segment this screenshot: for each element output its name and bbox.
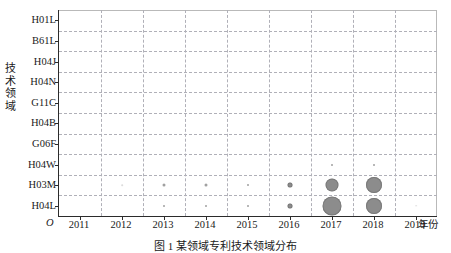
data-point bbox=[331, 164, 333, 166]
gridline-horizontal bbox=[59, 113, 437, 114]
gridline-horizontal bbox=[59, 175, 437, 176]
data-point bbox=[121, 184, 123, 186]
gridline-vertical bbox=[311, 10, 312, 216]
plot-frame-top bbox=[59, 10, 437, 11]
data-point bbox=[366, 198, 382, 214]
y-axis-title-char-3: 领 bbox=[2, 87, 18, 100]
x-axis-tick-label-2013: 2013 bbox=[141, 218, 185, 232]
x-axis-tick-label-2017: 2017 bbox=[309, 218, 353, 232]
y-axis-tick-labels: H01LB61LH04JH04NG11CH04BG06FH04WH03MH04L bbox=[18, 10, 56, 216]
data-point bbox=[205, 184, 208, 187]
y-axis-title-char-4: 域 bbox=[2, 100, 18, 113]
gridline-horizontal bbox=[59, 51, 437, 52]
gridline-horizontal bbox=[59, 92, 437, 93]
y-axis-tick bbox=[55, 144, 59, 145]
gridline-vertical bbox=[353, 10, 354, 216]
y-axis-tick bbox=[55, 103, 59, 104]
y-axis-tick-label-h04b: H04B bbox=[18, 117, 56, 129]
x-axis-tick-label-2014: 2014 bbox=[183, 218, 227, 232]
y-axis-tick bbox=[55, 62, 59, 63]
data-point bbox=[247, 205, 249, 207]
figure-caption: 图 1 某领域专利技术领域分布 bbox=[0, 239, 451, 253]
data-point bbox=[415, 205, 417, 207]
data-point bbox=[366, 177, 382, 193]
gridline-horizontal bbox=[59, 195, 437, 196]
y-axis-tick-label-h04n: H04N bbox=[18, 76, 56, 88]
y-axis-tick bbox=[55, 82, 59, 83]
y-axis-tick-label-h01l: H01L bbox=[18, 14, 56, 26]
y-axis-tick bbox=[55, 41, 59, 42]
y-axis-tick-label-h04l: H04L bbox=[18, 200, 56, 212]
gridline-vertical bbox=[395, 10, 396, 216]
data-point bbox=[205, 205, 207, 207]
gridline-vertical bbox=[269, 10, 270, 216]
data-point bbox=[323, 196, 342, 215]
data-point bbox=[163, 184, 166, 187]
data-point bbox=[288, 203, 293, 208]
y-axis-tick-label-g11c: G11C bbox=[18, 97, 56, 109]
y-axis-tick-label-h03m: H03M bbox=[18, 179, 56, 191]
y-axis-tick-label-g06f: G06F bbox=[18, 138, 56, 150]
y-axis-tick-label-h04w: H04W bbox=[18, 159, 56, 171]
y-axis-tick-label-b61l: B61L bbox=[18, 35, 56, 47]
x-axis-tick-label-2015: 2015 bbox=[225, 218, 269, 232]
x-axis-unit-label: 年份 bbox=[418, 218, 438, 232]
gridline-vertical bbox=[101, 10, 102, 216]
y-axis-tick bbox=[55, 20, 59, 21]
x-axis-tick-label-2016: 2016 bbox=[267, 218, 311, 232]
y-axis-tick bbox=[55, 206, 59, 207]
bubble-chart-figure: 技术领域 H01LB61LH04JH04NG11CH04BG06FH04WH03… bbox=[0, 0, 451, 253]
origin-label: O bbox=[46, 216, 54, 230]
x-axis-tick-label-2012: 2012 bbox=[99, 218, 143, 232]
y-axis-title: 技术领域 bbox=[2, 62, 18, 112]
data-point bbox=[373, 164, 375, 166]
y-axis-tick bbox=[55, 165, 59, 166]
gridline-horizontal bbox=[59, 154, 437, 155]
y-axis-tick bbox=[55, 185, 59, 186]
data-point bbox=[288, 183, 293, 188]
gridline-vertical bbox=[227, 10, 228, 216]
data-point bbox=[247, 184, 249, 186]
y-axis-tick-label-h04j: H04J bbox=[18, 56, 56, 68]
y-axis-title-char-2: 术 bbox=[2, 75, 18, 88]
data-point bbox=[326, 179, 339, 192]
gridline-horizontal bbox=[59, 72, 437, 73]
gridline-horizontal bbox=[59, 134, 437, 135]
gridline-horizontal bbox=[59, 31, 437, 32]
data-point bbox=[163, 205, 165, 207]
y-axis-tick bbox=[55, 123, 59, 124]
x-axis-tick-label-2011: 2011 bbox=[57, 218, 101, 232]
gridline-vertical bbox=[185, 10, 186, 216]
y-axis-title-char-1: 技 bbox=[2, 62, 18, 75]
gridline-vertical bbox=[143, 10, 144, 216]
x-axis-tick-labels: 201120122013201420152016201720182019 bbox=[58, 218, 436, 234]
x-axis-tick-label-2018: 2018 bbox=[351, 218, 395, 232]
plot-area bbox=[58, 10, 437, 217]
